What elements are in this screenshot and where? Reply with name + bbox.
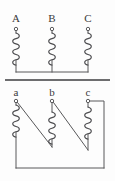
secondary-terminal-label-c: c: [82, 87, 94, 98]
delta-link-a-to-b: [18, 103, 53, 148]
secondary-terminal-label-b: b: [46, 87, 58, 98]
secondary-terminal-c-dot: [86, 99, 89, 102]
primary-terminal-label-a: A: [10, 13, 22, 24]
primary-winding-group: [13, 27, 92, 72]
primary-terminal-label-b: B: [46, 13, 58, 24]
primary-terminal-label-c: C: [82, 13, 94, 24]
primary-terminal-c-dot: [86, 27, 89, 30]
secondary-winding-group: [13, 99, 104, 168]
primary-terminal-b-dot: [50, 27, 53, 30]
secondary-terminal-a-dot: [14, 99, 17, 102]
delta-link-b-to-c: [54, 103, 89, 151]
primary-terminal-a-dot: [14, 27, 17, 30]
transformer-connection-diagram: A B C a b c: [0, 0, 115, 181]
secondary-terminal-b-dot: [50, 99, 53, 102]
secondary-terminal-label-a: a: [10, 87, 22, 98]
